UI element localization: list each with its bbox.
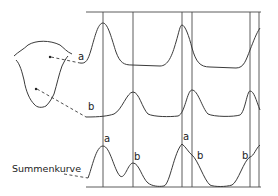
curve-a <box>80 23 260 68</box>
curve-b <box>86 90 260 117</box>
leader-line-b <box>37 89 86 117</box>
wave-diagram: a b Summenkurve a b a b b <box>0 0 278 196</box>
point-a-dot <box>49 56 51 58</box>
sum-peak-a2-label: a <box>183 131 189 142</box>
sum-peak-a1-label: a <box>104 133 110 144</box>
sum-peak-b3-label: b <box>242 150 248 161</box>
organ-outline <box>14 41 72 107</box>
curve-a-label: a <box>78 51 84 62</box>
sum-peak-b2-label: b <box>197 150 203 161</box>
sum-peak-b1-label: b <box>134 151 140 162</box>
sum-curve-label: Summenkurve <box>12 163 81 174</box>
point-b-dot <box>35 88 37 90</box>
sum-curve <box>88 144 260 187</box>
curve-b-label: b <box>88 101 94 112</box>
vertical-reference-lines <box>103 12 259 187</box>
leader-line-sum <box>64 174 88 178</box>
